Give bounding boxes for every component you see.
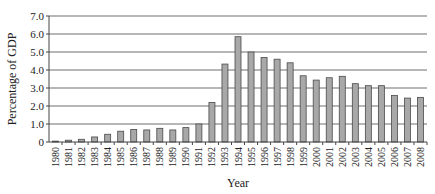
- x-tick-label: 1995: [246, 147, 257, 167]
- bar-1997: [274, 59, 280, 142]
- bar-chart: 01.02.03.04.05.06.07.0 19801981198219831…: [0, 0, 435, 194]
- y-tick-label: 7.0: [30, 10, 44, 22]
- x-tick-label: 1980: [50, 147, 61, 167]
- bar-1999: [300, 76, 306, 142]
- x-tick-label: 1999: [298, 147, 309, 167]
- bar-1998: [287, 63, 293, 142]
- x-tick-label: 2004: [363, 147, 374, 167]
- x-tick-label: 1989: [167, 147, 178, 167]
- x-tick-label: 2000: [311, 147, 322, 167]
- x-tick-label: 1998: [285, 147, 296, 167]
- x-tick-label: 1985: [115, 147, 126, 167]
- x-tick-label: 1996: [259, 147, 270, 167]
- bar-1993: [222, 64, 228, 142]
- x-tick-label: 1984: [102, 147, 113, 167]
- bar-2007: [404, 98, 410, 142]
- x-tick-label: 1987: [141, 147, 152, 167]
- x-tick-label: 1990: [180, 147, 191, 167]
- y-axis-ticks: 01.02.03.04.05.06.07.0: [30, 10, 49, 148]
- x-tick-label: 2006: [389, 147, 400, 167]
- y-tick-label: 4.0: [30, 64, 44, 76]
- bar-1986: [131, 129, 137, 142]
- bar-1996: [261, 57, 267, 142]
- y-tick-label: 2.0: [30, 100, 44, 112]
- bar-2001: [326, 78, 332, 142]
- bar-1984: [105, 134, 111, 142]
- x-tick-label: 2005: [376, 147, 387, 167]
- bar-1988: [157, 128, 163, 142]
- y-tick-label: 3.0: [30, 82, 44, 94]
- bar-1987: [144, 130, 150, 142]
- bar-1994: [235, 37, 241, 142]
- x-tick-label: 1982: [76, 147, 87, 167]
- x-tick-label: 2003: [350, 147, 361, 167]
- y-tick-label: 0: [39, 136, 45, 148]
- bar-2002: [339, 76, 345, 142]
- bar-2008: [417, 97, 423, 142]
- x-tick-label: 1991: [193, 147, 204, 167]
- bar-1992: [209, 102, 215, 142]
- x-axis-ticks: 1980198119821983198419851986198719881989…: [50, 142, 427, 167]
- x-tick-label: 1997: [272, 147, 283, 167]
- bar-1990: [183, 128, 189, 142]
- bar-2005: [378, 86, 384, 142]
- x-tick-label: 1994: [233, 147, 244, 167]
- x-tick-label: 1983: [89, 147, 100, 167]
- x-tick-label: 2001: [324, 147, 335, 167]
- x-tick-label: 2008: [415, 147, 426, 167]
- y-tick-label: 5.0: [30, 46, 44, 58]
- x-tick-label: 2002: [337, 147, 348, 167]
- y-tick-label: 6.0: [30, 28, 44, 40]
- x-axis-title: Year: [227, 176, 249, 190]
- y-axis-title: Percentage of GDP: [5, 32, 19, 125]
- bar-2004: [365, 86, 371, 142]
- bar-2006: [391, 95, 397, 142]
- bar-1989: [170, 130, 176, 142]
- bar-2000: [313, 80, 319, 142]
- x-tick-label: 1986: [128, 147, 139, 167]
- bar-1991: [196, 124, 202, 142]
- bar-2003: [352, 84, 358, 142]
- x-tick-label: 2007: [402, 147, 413, 167]
- x-tick-label: 1981: [63, 147, 74, 167]
- y-tick-label: 1.0: [30, 118, 44, 130]
- bar-1985: [118, 131, 124, 142]
- x-tick-label: 1992: [206, 147, 217, 167]
- bar-1983: [92, 137, 98, 142]
- bar-1995: [248, 52, 254, 142]
- x-tick-label: 1993: [219, 147, 230, 167]
- x-tick-label: 1988: [154, 147, 165, 167]
